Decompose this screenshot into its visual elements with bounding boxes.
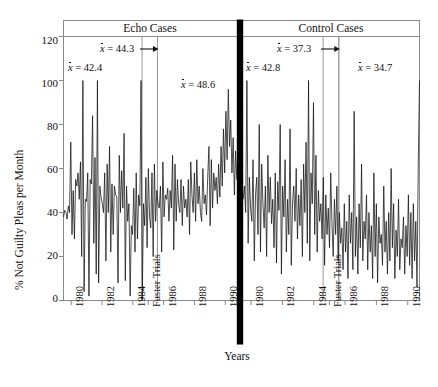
y-tick-0: 0 xyxy=(26,293,58,304)
y-tick-100: 100 xyxy=(26,78,58,89)
y-tick-120: 120 xyxy=(26,35,58,46)
x-tick-echo-6: 1990 xyxy=(229,286,240,307)
y-tick-80: 80 xyxy=(26,121,58,132)
x-tick-echo-2: 1984 xyxy=(137,286,148,307)
x-tick-echo-3: Fuster Trials xyxy=(152,254,163,307)
mean-label-control-3: x = 34.7 xyxy=(358,63,392,74)
y-tick-60: 60 xyxy=(26,164,58,175)
x-tick-control-6: 1990 xyxy=(412,286,423,307)
x-tick-echo-4: 1986 xyxy=(168,286,179,307)
x-tick-echo-5: 1988 xyxy=(198,286,209,307)
x-axis-title: Years xyxy=(206,351,268,363)
x-tick-control-2: 1984 xyxy=(318,286,329,307)
mean-label-echo-3: x = 48.6 xyxy=(181,80,215,91)
x-tick-echo-1: 1982 xyxy=(106,286,117,307)
y-axis-title: % Not Guilty Pleas per Month xyxy=(14,150,26,290)
x-tick-echo-0: 1980 xyxy=(75,286,86,307)
mean-label-control-1: x = 42.8 xyxy=(246,63,280,74)
x-tick-control-3: Fuster Trials xyxy=(333,254,344,307)
panel-title-control: Control Cases xyxy=(243,23,419,35)
x-tick-control-5: 1988 xyxy=(380,286,391,307)
x-tick-control-4: 1986 xyxy=(349,286,360,307)
mean-label-echo-2: x = 44.3 xyxy=(100,44,134,55)
x-tick-control-1: 1982 xyxy=(286,286,297,307)
panel-title-echo: Echo Cases xyxy=(63,23,237,35)
chart-canvas xyxy=(0,0,438,387)
mean-label-echo-1: xx̄ = 42.4 = 42.4 xyxy=(68,63,102,74)
figure-root: 120 100 80 60 40 20 0 % Not Guilty Pleas… xyxy=(0,0,438,387)
y-tick-40: 40 xyxy=(26,207,58,218)
y-tick-20: 20 xyxy=(26,250,58,261)
x-tick-control-0: 1980 xyxy=(255,286,266,307)
mean-label-control-2: x = 37.3 xyxy=(277,44,311,55)
